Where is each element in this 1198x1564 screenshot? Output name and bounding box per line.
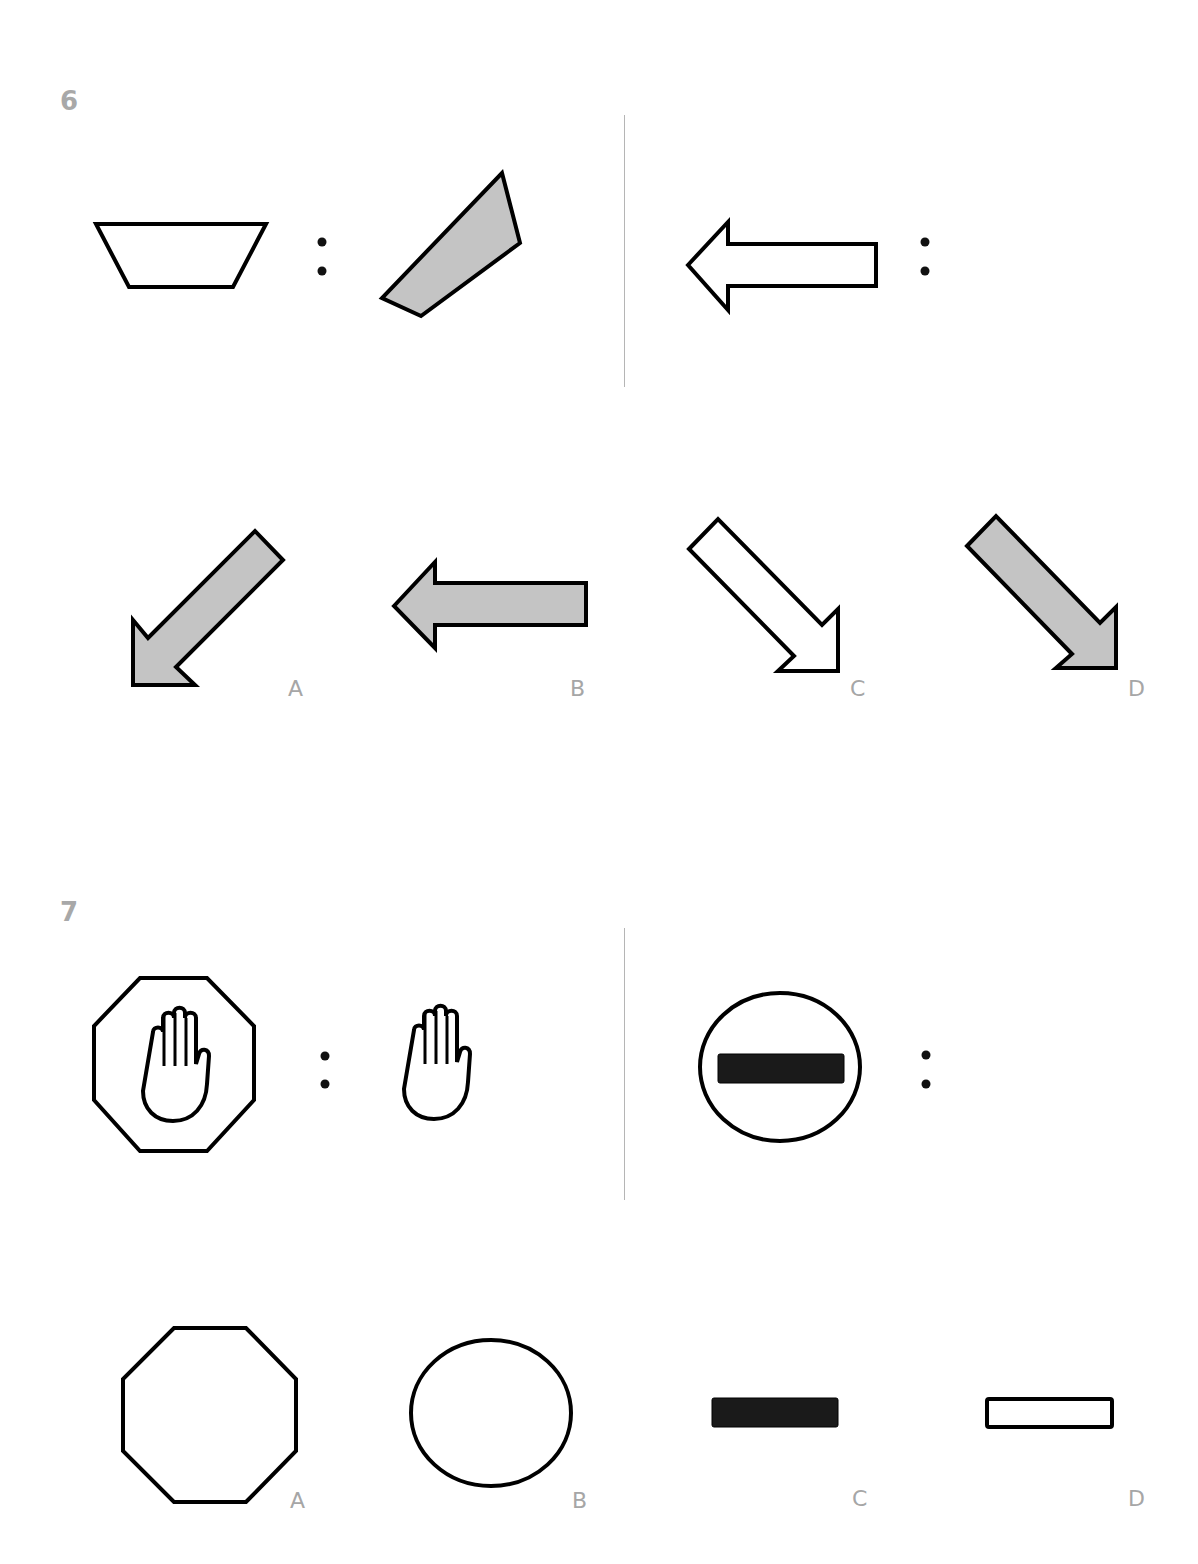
option-label-d: D xyxy=(1128,1486,1145,1511)
white-bar-icon xyxy=(0,0,1198,1564)
